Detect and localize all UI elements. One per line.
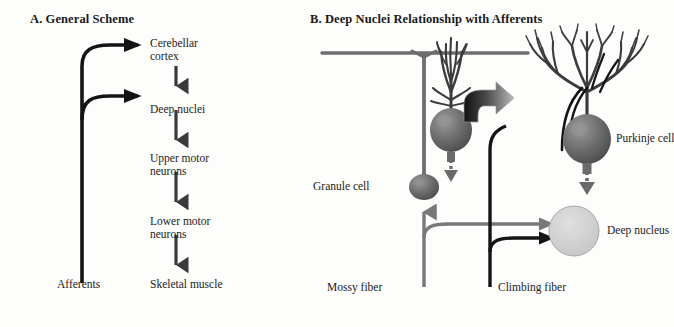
panel-a-general-scheme: A. General Scheme	[0, 0, 300, 327]
parallel-fiber	[322, 51, 528, 178]
purkinje-cell-right-dendrites	[526, 24, 648, 116]
label-purkinje-cell: Purkinje cell	[616, 132, 674, 144]
label-mossy-fiber: Mossy fiber	[327, 281, 382, 293]
transition-arrow	[464, 82, 514, 122]
granule-cell-soma	[409, 174, 439, 200]
flow-node-deep-nuclei: Deep nuclei	[150, 103, 205, 116]
deep-nucleus-circle	[549, 206, 599, 256]
flow-node-lower-motor-neurons: Lower motor neurons	[150, 215, 210, 241]
panel-b-deep-nuclei-relationship: B. Deep Nuclei Relationship with Afferen…	[300, 0, 666, 327]
panel-b-diagram	[300, 0, 666, 327]
mossy-fiber	[424, 212, 552, 287]
climbing-fiber	[490, 126, 552, 287]
purkinje-cell-right-soma	[563, 114, 611, 195]
flow-node-cerebellar-cortex: Cerebellar cortex	[150, 37, 198, 63]
afferent-branch-to-cortex	[82, 45, 138, 98]
label-deep-nucleus: Deep nucleus	[607, 224, 669, 236]
flow-node-skeletal-muscle: Skeletal muscle	[150, 278, 223, 291]
flow-node-afferents: Afferents	[57, 278, 100, 291]
label-climbing-fiber: Climbing fiber	[498, 281, 566, 293]
afferent-branch-to-deep-nuclei	[82, 96, 138, 120]
label-granule-cell: Granule cell	[313, 180, 370, 192]
flow-node-upper-motor-neurons: Upper motor neurons	[150, 152, 209, 178]
